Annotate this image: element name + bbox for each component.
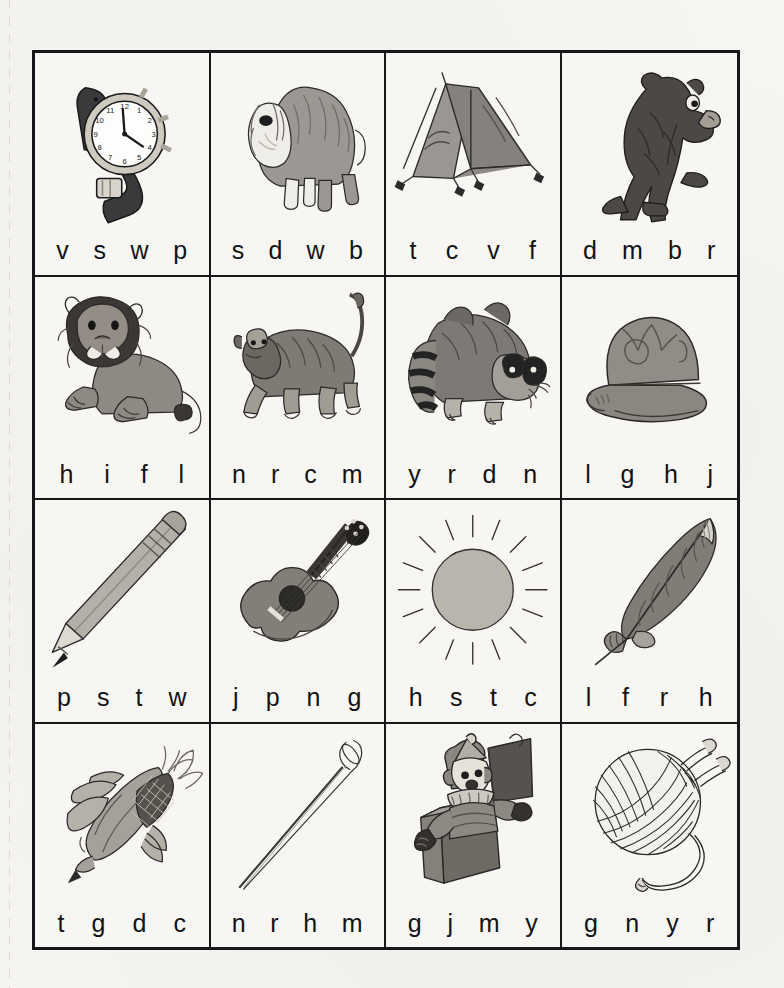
letter-option[interactable]: m bbox=[342, 911, 363, 936]
svg-text:2: 2 bbox=[148, 116, 152, 125]
svg-text:6: 6 bbox=[122, 157, 126, 166]
letter-option[interactable]: w bbox=[131, 238, 149, 263]
letter-option[interactable]: p bbox=[266, 685, 280, 710]
worksheet-cell[interactable]: s d w b bbox=[211, 53, 387, 277]
letter-option[interactable]: t bbox=[490, 685, 497, 710]
letter-option[interactable]: b bbox=[668, 238, 682, 263]
letter-option[interactable]: y bbox=[666, 911, 679, 936]
worksheet-cell[interactable]: n r h m bbox=[211, 724, 387, 948]
letter-option[interactable]: f bbox=[141, 462, 148, 487]
letter-option[interactable]: v bbox=[56, 238, 69, 263]
letter-choices: g n y r bbox=[562, 905, 738, 947]
letter-option[interactable]: j bbox=[708, 462, 714, 487]
letter-option[interactable]: s bbox=[93, 238, 106, 263]
worksheet-cell[interactable]: g n y r bbox=[562, 724, 738, 948]
worksheet-cell[interactable]: l g h j bbox=[562, 277, 738, 501]
worksheet-grid: 12 12 34 56 78 910 11 v s w p bbox=[32, 50, 740, 950]
letter-option[interactable]: b bbox=[349, 238, 363, 263]
letter-option[interactable]: r bbox=[271, 462, 279, 487]
picture-tent bbox=[386, 53, 560, 233]
picture-needle bbox=[211, 724, 385, 906]
letter-option[interactable]: h bbox=[699, 685, 713, 710]
letter-option[interactable]: g bbox=[584, 911, 598, 936]
worksheet-cell[interactable]: n r c m bbox=[211, 277, 387, 501]
letter-option[interactable]: g bbox=[621, 462, 635, 487]
letter-option[interactable]: t bbox=[410, 238, 417, 263]
letter-option[interactable]: p bbox=[57, 685, 71, 710]
worksheet-cell[interactable]: h i f l bbox=[35, 277, 211, 501]
letter-option[interactable]: s bbox=[232, 238, 245, 263]
letter-option[interactable]: r bbox=[270, 911, 278, 936]
picture-sun bbox=[386, 500, 560, 680]
letter-choices: v s w p bbox=[35, 233, 209, 275]
worksheet-cell[interactable]: h s t c bbox=[386, 500, 562, 724]
letter-option[interactable]: d bbox=[132, 911, 146, 936]
letter-option[interactable]: h bbox=[303, 911, 317, 936]
letter-option[interactable]: g bbox=[348, 685, 362, 710]
letter-option[interactable]: y bbox=[525, 911, 538, 936]
letter-option[interactable]: p bbox=[173, 238, 187, 263]
letter-option[interactable]: i bbox=[104, 462, 110, 487]
letter-option[interactable]: m bbox=[342, 462, 363, 487]
letter-option[interactable]: l bbox=[586, 685, 592, 710]
letter-option[interactable]: t bbox=[135, 685, 142, 710]
letter-option[interactable]: n bbox=[232, 462, 246, 487]
worksheet-cell[interactable]: j p n g bbox=[211, 500, 387, 724]
letter-option[interactable]: w bbox=[168, 685, 186, 710]
letter-option[interactable]: d bbox=[268, 238, 282, 263]
letter-option[interactable]: r bbox=[660, 685, 668, 710]
letter-option[interactable]: n bbox=[625, 911, 639, 936]
letter-choices: g j m y bbox=[386, 905, 560, 947]
letter-option[interactable]: n bbox=[307, 685, 321, 710]
picture-sheepdog bbox=[211, 53, 385, 233]
picture-lion bbox=[35, 277, 209, 457]
letter-option[interactable]: m bbox=[622, 238, 643, 263]
letter-option[interactable]: d bbox=[483, 462, 497, 487]
letter-option[interactable]: l bbox=[585, 462, 591, 487]
letter-option[interactable]: s bbox=[97, 685, 110, 710]
letter-option[interactable]: n bbox=[232, 911, 246, 936]
letter-option[interactable]: r bbox=[707, 238, 715, 263]
letter-option[interactable]: c bbox=[173, 911, 186, 936]
picture-raccoon bbox=[386, 277, 560, 457]
worksheet-cell[interactable]: y r d n bbox=[386, 277, 562, 501]
letter-option[interactable]: f bbox=[622, 685, 629, 710]
letter-option[interactable]: t bbox=[58, 911, 65, 936]
letter-option[interactable]: m bbox=[479, 911, 500, 936]
worksheet-cell[interactable]: t g d c bbox=[35, 724, 211, 948]
letter-option[interactable]: c bbox=[446, 238, 459, 263]
worksheet-cell[interactable]: 12 12 34 56 78 910 11 v s w p bbox=[35, 53, 211, 277]
letter-option[interactable]: h bbox=[664, 462, 678, 487]
letter-option[interactable]: h bbox=[409, 685, 423, 710]
letter-option[interactable]: y bbox=[408, 462, 421, 487]
worksheet-cell[interactable]: p s t w bbox=[35, 500, 211, 724]
letter-option[interactable]: c bbox=[304, 462, 317, 487]
letter-choices: s d w b bbox=[211, 233, 385, 275]
worksheet-cell[interactable]: g j m y bbox=[386, 724, 562, 948]
letter-option[interactable]: r bbox=[448, 462, 456, 487]
svg-text:11: 11 bbox=[106, 106, 114, 115]
worksheet-cell[interactable]: d m b r bbox=[562, 53, 738, 277]
picture-bear bbox=[562, 53, 738, 233]
worksheet-cell[interactable]: t c v f bbox=[386, 53, 562, 277]
letter-option[interactable]: l bbox=[178, 462, 184, 487]
letter-choices: l f r h bbox=[562, 680, 738, 722]
picture-guitar bbox=[211, 500, 385, 680]
letter-option[interactable]: d bbox=[583, 238, 597, 263]
letter-option[interactable]: n bbox=[523, 462, 537, 487]
worksheet-cell[interactable]: l f r h bbox=[562, 500, 738, 724]
letter-option[interactable]: h bbox=[59, 462, 73, 487]
letter-option[interactable]: j bbox=[233, 685, 239, 710]
picture-jack-in-the-box bbox=[386, 724, 560, 906]
letter-option[interactable]: g bbox=[92, 911, 106, 936]
letter-option[interactable]: f bbox=[529, 238, 536, 263]
letter-option[interactable]: g bbox=[408, 911, 422, 936]
picture-hat bbox=[562, 277, 738, 457]
letter-option[interactable]: s bbox=[450, 685, 463, 710]
letter-option[interactable]: w bbox=[307, 238, 325, 263]
letter-option[interactable]: j bbox=[447, 911, 453, 936]
letter-option[interactable]: v bbox=[487, 238, 500, 263]
letter-choices: d m b r bbox=[562, 233, 738, 275]
letter-option[interactable]: c bbox=[524, 685, 537, 710]
letter-option[interactable]: r bbox=[706, 911, 714, 936]
